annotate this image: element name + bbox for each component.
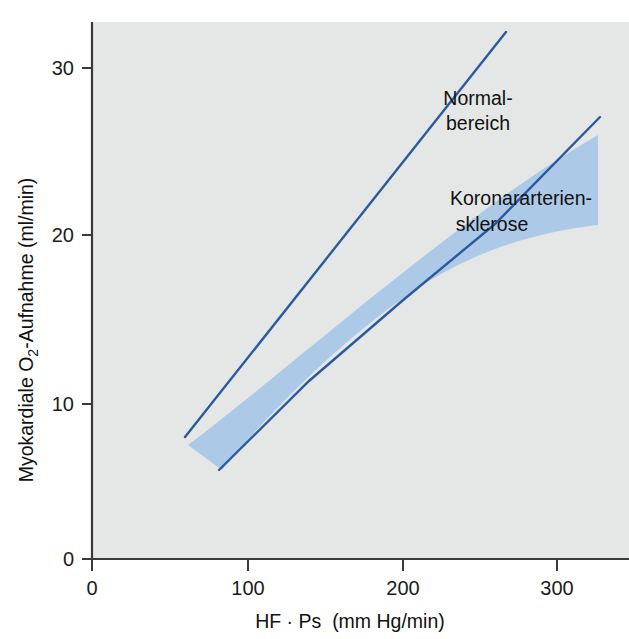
annotation-sklerose-line2: sklerose: [456, 213, 529, 235]
y-axis-title-suffix: -Aufnahme (ml/min): [15, 178, 37, 349]
y-tick-label-30: 30: [52, 57, 74, 79]
x-tick-label-200: 200: [386, 577, 419, 599]
x-tick-label-100: 100: [231, 577, 264, 599]
chart-svg: 30 20 10 0 0 100 200 300 HF · Ps (mm Hg/…: [0, 0, 629, 639]
y-axis-title: Myokardiale O2-Aufnahme (ml/min): [15, 178, 41, 483]
y-axis-title-subscript: 2: [25, 349, 41, 357]
y-tick-label-0: 0: [63, 548, 74, 570]
annotation-sklerose-line1: Koronararterien-: [450, 187, 592, 209]
x-axis-title-main: HF · Ps: [255, 610, 321, 632]
annotation-normalbereich-line2: bereich: [446, 112, 510, 134]
x-tick-label-0: 0: [86, 577, 97, 599]
sclerosis-band-area: [188, 135, 598, 470]
x-tick-label-300: 300: [540, 577, 573, 599]
annotation-normalbereich-line1: Normal-: [443, 87, 512, 109]
x-axis-title: HF · Ps (mm Hg/min): [255, 610, 445, 632]
y-axis-title-prefix: Myokardiale O: [15, 357, 37, 483]
y-tick-label-20: 20: [52, 224, 74, 246]
figure-canvas: 30 20 10 0 0 100 200 300 HF · Ps (mm Hg/…: [0, 0, 629, 639]
y-tick-label-10: 10: [52, 393, 74, 415]
x-axis-title-units: (mm Hg/min): [332, 610, 445, 632]
